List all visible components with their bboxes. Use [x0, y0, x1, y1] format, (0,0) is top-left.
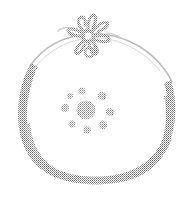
seed-upper-right	[98, 92, 107, 101]
fruit-line-drawing: Fruit Line Drawing Hand-drawn outline of…	[0, 0, 192, 197]
center-seed	[77, 101, 96, 120]
seed-lower-right	[99, 121, 108, 130]
calyx-core-inner	[85, 33, 92, 40]
seed-lower-left	[68, 120, 75, 127]
image-canvas: Fruit Line Drawing Hand-drawn outline of…	[0, 0, 192, 197]
background	[0, 0, 192, 197]
seed-top	[78, 87, 85, 94]
seed-bottom	[83, 126, 91, 134]
seed-right	[106, 108, 114, 116]
seed-left	[61, 104, 69, 112]
seed-upper-left	[67, 93, 73, 99]
